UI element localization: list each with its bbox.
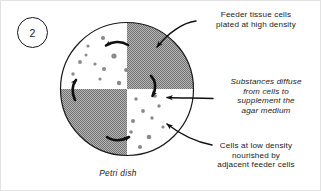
cell-dot bbox=[85, 54, 88, 57]
cell-dot bbox=[150, 116, 153, 119]
quadrant-bottom-right-lowdensity bbox=[127, 89, 199, 161]
cell-dot bbox=[71, 72, 74, 75]
cell-dot bbox=[86, 44, 89, 47]
cell-dot bbox=[134, 97, 137, 100]
cell-dot bbox=[117, 81, 121, 85]
annotation-cells-low-density: Cells at low density nourished by adjace… bbox=[197, 141, 315, 170]
cell-dot bbox=[101, 36, 105, 40]
cell-dot bbox=[131, 119, 135, 123]
cell-dot bbox=[147, 135, 152, 140]
cell-dot bbox=[93, 62, 96, 65]
annotation-substances-diffuse: Substances diffuse from cells to supplem… bbox=[215, 77, 317, 115]
petri-dish-caption: Petri dish bbox=[63, 168, 173, 178]
cell-dot bbox=[138, 145, 142, 149]
step-number-text: 2 bbox=[30, 27, 36, 39]
step-number-badge: 2 bbox=[17, 17, 48, 48]
cell-dot bbox=[98, 77, 101, 80]
cell-dot bbox=[161, 125, 164, 128]
cell-dot bbox=[141, 109, 145, 113]
cell-dot bbox=[102, 67, 106, 71]
figure-canvas: 2 Feeder tissue cells plated at high den… bbox=[0, 0, 321, 191]
leader-arrow-diffuse bbox=[167, 98, 213, 99]
quadrant-top-left-lowdensity bbox=[58, 20, 127, 89]
dish-interior bbox=[58, 20, 199, 161]
annotation-feeder-tissue-cells: Feeder tissue cells plated at high densi… bbox=[197, 10, 315, 29]
cell-dot bbox=[78, 60, 82, 64]
cell-dot bbox=[111, 53, 116, 58]
quadrant-top-right-feeder bbox=[127, 20, 199, 89]
cell-dot bbox=[157, 104, 160, 107]
quadrant-bottom-left-feeder bbox=[58, 89, 127, 161]
cell-dot bbox=[129, 130, 133, 134]
cell-dot bbox=[124, 68, 128, 72]
